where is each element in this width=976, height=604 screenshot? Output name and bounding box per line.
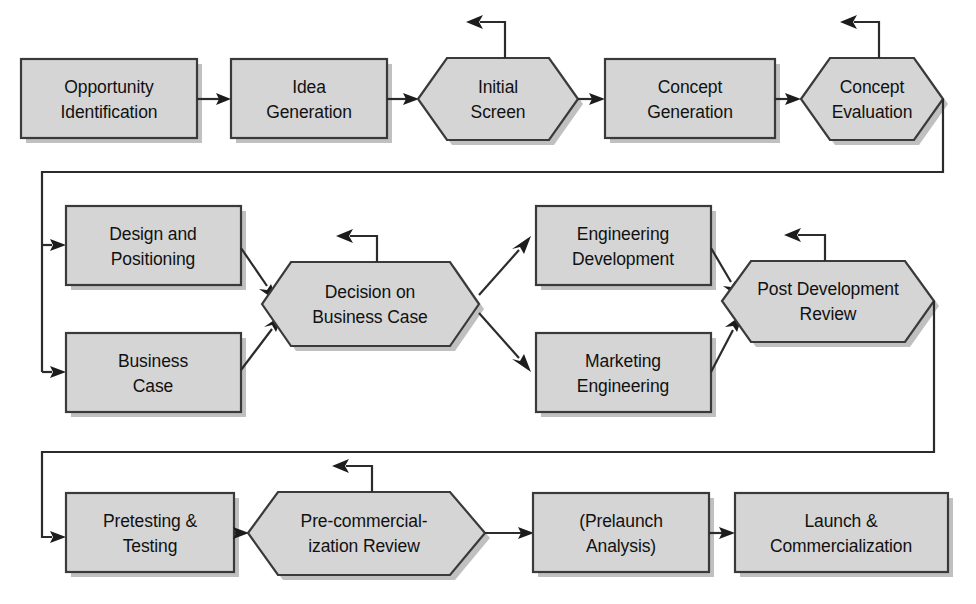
rework-loop-post-development-review — [784, 228, 825, 261]
node-label-line1: Design and — [109, 224, 197, 244]
arrow-decision-to-engineering-development — [479, 236, 531, 295]
flowchart-canvas: Opportunity Identification Idea Generati… — [0, 0, 976, 604]
node-launch-and-commercialization[interactable]: Launch & Commercialization — [735, 493, 953, 577]
node-label-line1: (Prelaunch — [579, 511, 663, 531]
node-initial-screen[interactable]: Initial Screen — [418, 58, 583, 145]
node-label-line1: Concept — [840, 77, 905, 97]
node-concept-evaluation[interactable]: Concept Evaluation — [801, 58, 948, 145]
node-concept-generation[interactable]: Concept Generation — [605, 59, 780, 143]
arrow-opportunity-to-idea — [197, 93, 231, 105]
node-label-line1: Concept — [658, 77, 723, 97]
node-label-line1: Business — [118, 351, 189, 371]
node-label-line2: Engineering — [577, 376, 669, 396]
node-label-line1: Marketing — [585, 351, 661, 371]
node-label-line1: Opportunity — [64, 77, 154, 97]
node-label-line1: Post Development — [757, 279, 899, 299]
node-engineering-development[interactable]: Engineering Development — [536, 206, 716, 290]
node-label-line1: Launch & — [804, 511, 878, 531]
flowchart-root: Opportunity Identification Idea Generati… — [0, 0, 976, 604]
node-label-line1: Pre-commercial- — [301, 511, 428, 531]
node-label-line2: Commercialization — [770, 536, 912, 556]
node-label-line2: Analysis) — [586, 536, 656, 556]
rework-loop-concept-evaluation — [840, 15, 879, 58]
node-label-line1: Idea — [292, 77, 326, 97]
node-opportunity-identification[interactable]: Opportunity Identification — [21, 59, 202, 143]
node-post-development-review[interactable]: Post Development Review — [722, 261, 939, 347]
arrow-precommercialization-to-prelaunch — [485, 527, 534, 539]
node-label-line2: Business Case — [312, 307, 427, 327]
node-label-line2: Screen — [471, 102, 526, 122]
rework-loop-initial-screen — [466, 15, 505, 58]
node-label-line2: ization Review — [308, 536, 420, 556]
arrow-pretesting-to-precommercialization — [233, 527, 249, 539]
node-business-case[interactable]: Business Case — [66, 333, 246, 417]
node-label-line2: Evaluation — [832, 102, 913, 122]
node-pre-commercialization-review[interactable]: Pre-commercial- ization Review — [248, 492, 490, 580]
node-decision-on-business-case[interactable]: Decision on Business Case — [262, 262, 484, 351]
node-prelaunch-analysis[interactable]: (Prelaunch Analysis) — [533, 493, 714, 577]
rework-loop-decision-on-business-case — [336, 229, 377, 262]
node-label-line2: Generation — [647, 102, 733, 122]
node-label-line2: Development — [572, 249, 674, 269]
node-idea-generation[interactable]: Idea Generation — [231, 59, 392, 143]
arrow-decision-to-marketing-engineering — [479, 313, 531, 372]
node-label-line2: Generation — [266, 102, 352, 122]
node-label-line2: Identification — [61, 102, 158, 122]
node-pretesting-and-testing[interactable]: Pretesting & Testing — [66, 493, 239, 577]
node-label-line2: Case — [133, 376, 173, 396]
node-label-line1: Initial — [478, 77, 518, 97]
node-label-line1: Decision on — [325, 282, 415, 302]
node-label-line2: Review — [800, 304, 857, 324]
rework-loop-pre-commercialization-review — [332, 459, 372, 492]
node-label-line2: Positioning — [111, 249, 196, 269]
node-label-line1: Engineering — [577, 224, 669, 244]
node-label-line2: Testing — [123, 536, 178, 556]
node-design-and-positioning[interactable]: Design and Positioning — [66, 206, 246, 290]
node-marketing-engineering[interactable]: Marketing Engineering — [536, 333, 716, 417]
node-label-line1: Pretesting & — [103, 511, 198, 531]
